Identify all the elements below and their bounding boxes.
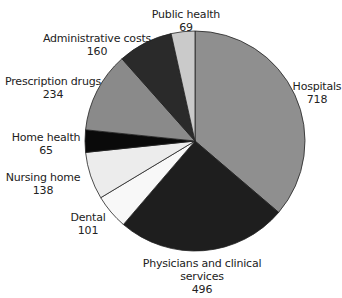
slice-label-text: Public health [152,8,220,21]
slice-label-text: Prescription drugs [5,75,101,88]
slice-label-prescription-drugs: Prescription drugs234 [5,75,101,101]
slice-value: 138 [6,184,81,197]
slice-label-physicians-and-clinical-services: Physicians and clinicalservices496 [143,257,262,296]
slice-label-text: Physicians and clinical [143,257,262,270]
slice-label-text: Hospitals [293,80,342,93]
slice-value: 101 [70,224,105,237]
slice-label-text: Administrative costs [43,32,151,45]
slice-label-administrative-costs: Administrative costs160 [43,32,151,58]
slice-label-dental: Dental101 [70,211,105,237]
slice-label-text: Nursing home [6,171,81,184]
slice-label-text: services [143,270,262,283]
slice-value: 65 [12,144,81,157]
slice-label-hospitals: Hospitals718 [293,80,342,106]
slice-value: 160 [43,45,151,58]
slice-label-text: Dental [70,211,105,224]
slice-label-home-health: Home health65 [12,131,81,157]
slice-value: 69 [152,21,220,34]
pie-chart: Hospitals718Physicians and clinicalservi… [0,0,342,298]
slice-value: 234 [5,88,101,101]
slice-label-public-health: Public health69 [152,8,220,34]
slice-label-text: Home health [12,131,81,144]
slice-label-nursing-home: Nursing home138 [6,171,81,197]
slice-value: 496 [143,283,262,296]
slice-value: 718 [293,93,342,106]
